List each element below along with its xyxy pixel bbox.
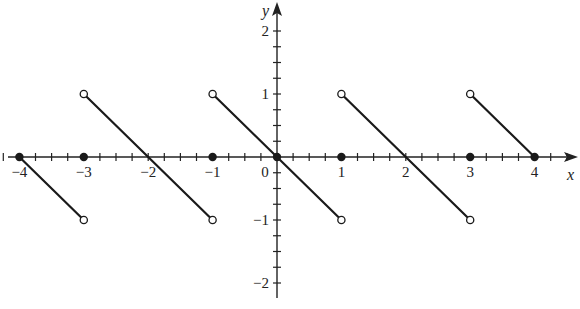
x-tick-label: −2 <box>140 164 156 180</box>
filled-point <box>466 153 474 161</box>
tick-labels: xy−4−3−2−101234−2−112 <box>11 2 574 291</box>
filled-point <box>208 153 216 161</box>
open-point <box>467 90 474 97</box>
filled-point <box>80 153 88 161</box>
x-tick-label: −4 <box>11 164 27 180</box>
filled-point <box>530 153 538 161</box>
y-tick-label: 1 <box>262 86 270 102</box>
y-tick-label: −1 <box>253 212 269 228</box>
x-tick-label: 0 <box>261 164 269 180</box>
x-tick-label: 1 <box>338 164 346 180</box>
x-tick-label: −3 <box>76 164 92 180</box>
x-tick-label: 4 <box>531 164 539 180</box>
function-graph: xy−4−3−2−101234−2−112 <box>0 0 580 309</box>
open-point <box>338 90 345 97</box>
x-tick-label: −1 <box>205 164 221 180</box>
y-axis-label: y <box>260 2 270 20</box>
y-tick-label: −2 <box>253 275 269 291</box>
x-axis-arrow-icon <box>564 152 578 162</box>
filled-point <box>273 153 281 161</box>
x-tick-label: 3 <box>466 164 474 180</box>
open-point <box>209 90 216 97</box>
open-point <box>209 216 216 223</box>
graph-segment <box>470 94 534 157</box>
x-tick-label: 2 <box>402 164 410 180</box>
x-axis-label: x <box>566 166 574 183</box>
graph-segment <box>19 157 83 220</box>
filled-point <box>15 153 23 161</box>
open-point <box>80 216 87 223</box>
open-point <box>467 216 474 223</box>
open-point <box>80 90 87 97</box>
y-tick-label: 2 <box>262 23 270 39</box>
open-point <box>338 216 345 223</box>
filled-point <box>337 153 345 161</box>
axes <box>8 2 578 298</box>
